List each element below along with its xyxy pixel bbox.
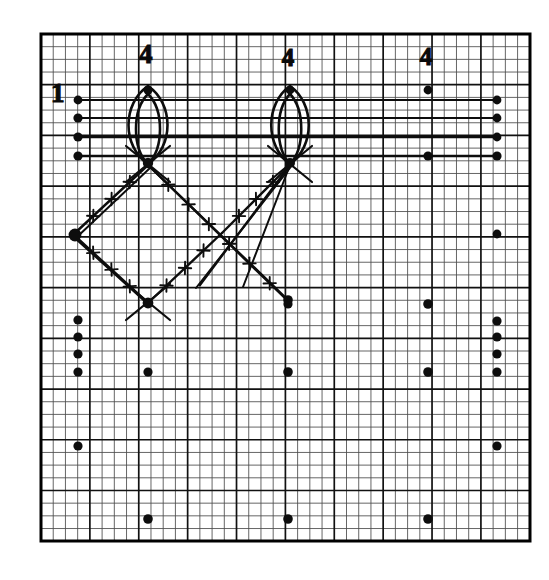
dot-right-col-3 (492, 349, 501, 358)
dot-left-col-5 (73, 441, 82, 450)
dot-right-h2 (493, 114, 502, 123)
tick-mark (105, 269, 117, 270)
dot-right-col-1 (492, 316, 501, 325)
dot-left-h3 (73, 132, 82, 141)
dot-left-col-3 (73, 349, 82, 358)
paper-background (0, 0, 549, 580)
dot-lens2-bottom (285, 158, 295, 168)
tick-mark (87, 252, 99, 253)
dot-left-col-4 (73, 367, 82, 376)
dot-lens2-top (286, 86, 295, 95)
dot-row-mid-r (423, 367, 433, 377)
dot-right-col-5 (492, 441, 501, 450)
dot-bottom-c (283, 514, 293, 524)
dot-left-col-2 (73, 332, 82, 341)
dot-right-h1 (493, 96, 502, 105)
dot-left-h1 (74, 96, 83, 105)
dot-left-col-1 (73, 315, 82, 324)
dot-bottom-r (423, 514, 433, 524)
diagram-canvas (0, 0, 549, 580)
label-4-second: 4 (282, 45, 295, 70)
dot-diamond-bottom (143, 298, 154, 309)
dot-left-h2 (73, 113, 82, 122)
diagram-stage: 1444 (0, 0, 549, 580)
dot-right-h4 (492, 151, 501, 160)
dot-right-col-2 (492, 332, 501, 341)
dot-lens1-bottom (143, 158, 153, 168)
dot-right-mid (493, 230, 502, 239)
dot-diamond-left (69, 229, 82, 242)
dot-row-mid-c (283, 367, 293, 377)
label-1-left: 1 (51, 80, 65, 107)
dot-bottom-left (143, 514, 153, 524)
dot-upper-r (423, 299, 433, 309)
dot-right-h3 (493, 133, 502, 142)
dot-right-col-4 (492, 367, 501, 376)
dot-label4-third (424, 86, 433, 95)
label-4-third: 4 (420, 44, 433, 69)
dot-mid-h4 (423, 151, 432, 160)
label-4-first: 4 (139, 41, 153, 68)
dot-row-mid-left (143, 367, 152, 376)
dot-left-h4 (73, 151, 82, 160)
dot-upper-c (283, 299, 292, 308)
dot-lens1-top (143, 85, 152, 94)
